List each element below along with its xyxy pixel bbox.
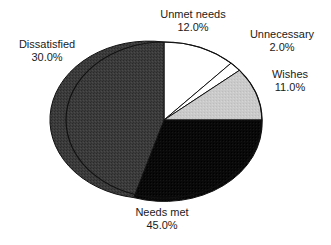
- slice-label-needs-met: Needs met 45.0%: [112, 206, 212, 231]
- slice-label-name: Unnecessary: [236, 28, 328, 41]
- slice-label-name: Wishes: [256, 68, 324, 81]
- pie-chart-figure: Unmet needs 12.0% Unnecessary 2.0% Wishe…: [0, 0, 331, 245]
- slice-label-value: 11.0%: [256, 81, 324, 94]
- slice-label-unnecessary: Unnecessary 2.0%: [236, 28, 328, 53]
- slice-label-value: 2.0%: [236, 41, 328, 54]
- slice-label-name: Needs met: [112, 206, 212, 219]
- slice-label-value: 12.0%: [143, 21, 243, 34]
- slice-label-wishes: Wishes 11.0%: [256, 68, 324, 93]
- slice-label-unmet-needs: Unmet needs 12.0%: [143, 8, 243, 33]
- slice-label-value: 45.0%: [112, 219, 212, 232]
- slice-label-name: Unmet needs: [143, 8, 243, 21]
- slice-label-dissatisfied: Dissatisfied 30.0%: [8, 38, 86, 63]
- slice-label-name: Dissatisfied: [8, 38, 86, 51]
- slice-label-value: 30.0%: [8, 51, 86, 64]
